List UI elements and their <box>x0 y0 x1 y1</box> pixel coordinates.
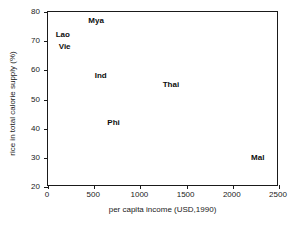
y-tick-label: 40 <box>26 123 40 132</box>
x-tick-label: 1500 <box>177 190 195 199</box>
plot-area: MyaLaoVieIndThaiPhiMal <box>47 11 278 186</box>
data-point-ind: Ind <box>95 72 107 80</box>
x-tick-mark <box>140 185 141 189</box>
data-point-mya: Mya <box>88 17 104 25</box>
y-tick-label: 50 <box>26 94 40 103</box>
x-tick-label: 0 <box>45 190 49 199</box>
x-tick-label: 500 <box>87 190 100 199</box>
y-tick-label: 20 <box>26 182 40 191</box>
y-tick-mark <box>44 12 48 13</box>
y-tick-label: 80 <box>26 7 40 16</box>
x-axis-title: per capita income (USD,1990) <box>47 205 278 214</box>
y-axis-title: rice in total calorie supply (%) <box>8 16 17 191</box>
y-tick-mark <box>44 158 48 159</box>
x-tick-label: 1000 <box>130 190 148 199</box>
data-point-mal: Mal <box>251 154 264 162</box>
x-tick-label: 2000 <box>223 190 241 199</box>
y-tick-mark <box>44 187 48 188</box>
y-tick-mark <box>44 100 48 101</box>
x-tick-mark <box>187 185 188 189</box>
x-tick-mark <box>94 185 95 189</box>
x-tick-mark <box>279 185 280 189</box>
y-tick-label: 60 <box>26 65 40 74</box>
data-point-vie: Vie <box>59 43 71 51</box>
y-tick-mark <box>44 41 48 42</box>
y-tick-mark <box>44 70 48 71</box>
y-tick-mark <box>44 129 48 130</box>
y-tick-label: 70 <box>26 36 40 45</box>
data-point-lao: Lao <box>56 31 70 39</box>
x-tick-mark <box>48 185 49 189</box>
x-tick-label: 2500 <box>269 190 287 199</box>
data-point-phi: Phi <box>107 119 119 127</box>
scatter-chart: MyaLaoVieIndThaiPhiMal 05001000150020002… <box>0 0 294 226</box>
y-tick-label: 30 <box>26 152 40 161</box>
x-tick-mark <box>233 185 234 189</box>
data-point-thai: Thai <box>163 81 179 89</box>
